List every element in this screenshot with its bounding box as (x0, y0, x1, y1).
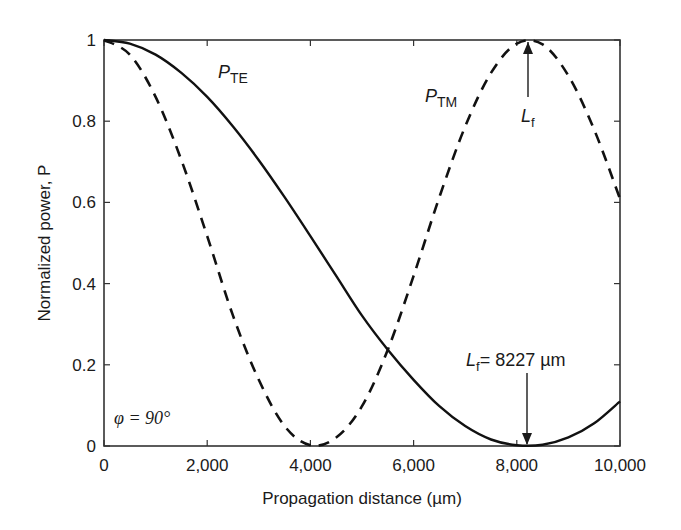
y-tick-label: 0 (87, 437, 96, 456)
coupling-power-chart: 02,0004,0006,0008,00010,000 00.20.40.60.… (0, 0, 681, 530)
x-axis-tick-labels: 02,0004,0006,0008,00010,000 (99, 456, 646, 475)
x-axis-ticks (104, 40, 620, 446)
y-tick-label: 0.2 (72, 356, 96, 375)
y-tick-label: 1 (87, 31, 96, 50)
plot-frame (104, 40, 620, 446)
y-tick-label: 0.6 (72, 193, 96, 212)
y-tick-label: 0.4 (72, 275, 96, 294)
y-tick-label: 0.8 (72, 112, 96, 131)
x-tick-label: 10,000 (594, 456, 646, 475)
x-tick-label: 8,000 (496, 456, 539, 475)
label-phi: φ = 90° (114, 408, 170, 428)
label-p-tm: PTM (425, 86, 457, 110)
x-tick-label: 2,000 (186, 456, 229, 475)
x-tick-label: 6,000 (392, 456, 435, 475)
y-axis-ticks (104, 40, 620, 446)
x-tick-label: 4,000 (289, 456, 332, 475)
curve-p-tm (104, 40, 620, 446)
arrowhead-down-icon (522, 433, 532, 445)
label-lf-top: Lf (521, 106, 535, 130)
y-axis-tick-labels: 00.20.40.60.81 (72, 31, 96, 456)
label-p-te: PTE (218, 62, 248, 86)
series-layer (104, 40, 620, 446)
y-axis-title: Normalized power, P (35, 165, 54, 322)
curve-p-te (104, 40, 620, 446)
label-lf-value: Lf= 8227 µm (466, 350, 566, 374)
x-axis-title: Propagation distance (µm) (262, 489, 462, 508)
x-tick-label: 0 (99, 456, 108, 475)
arrowhead-up-icon (523, 42, 533, 54)
